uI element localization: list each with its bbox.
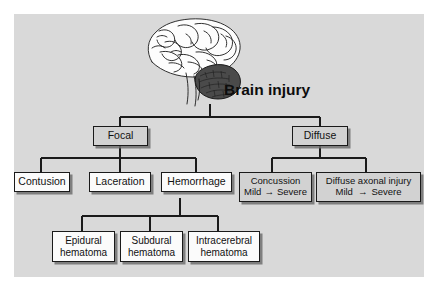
node-focal[interactable]: Focal: [93, 126, 148, 146]
node-contusion-label: Contusion: [18, 176, 65, 188]
node-laceration-label: Laceration: [95, 176, 144, 188]
node-epidural-hematoma-label-line1: Epidural: [65, 235, 102, 246]
node-epidural-hematoma[interactable]: Epidural hematoma: [52, 231, 115, 262]
node-diffuse[interactable]: Diffuse: [292, 126, 348, 146]
node-subdural-hematoma-label-line1: Subdural: [131, 235, 171, 246]
node-intracerebral-hematoma[interactable]: Intracerebral hematoma: [188, 231, 260, 262]
node-subdural-hematoma[interactable]: Subdural hematoma: [120, 231, 183, 262]
node-concussion[interactable]: Concussion Mild → Severe: [239, 172, 312, 202]
severity-arrow-icon: →: [358, 187, 367, 198]
severity-severe-label: Severe: [277, 187, 307, 198]
node-focal-label: Focal: [108, 130, 134, 142]
concussion-severity-scale: Mild → Severe: [244, 187, 307, 198]
node-hemorrhage-label: Hemorrhage: [167, 176, 225, 188]
severity-severe-label: Severe: [371, 187, 401, 198]
severity-mild-label: Mild: [335, 187, 352, 198]
tree-connectors: [41, 104, 366, 231]
node-laceration[interactable]: Laceration: [89, 172, 151, 192]
severity-mild-label: Mild: [244, 187, 261, 198]
node-subdural-hematoma-label-line2: hematoma: [128, 247, 175, 258]
page-title: Brain injury: [224, 81, 310, 99]
severity-arrow-icon: →: [264, 187, 274, 198]
diagram-page: Brain injury Focal Diffuse Contusion Lac…: [0, 0, 446, 295]
node-epidural-hematoma-label-line2: hematoma: [60, 247, 107, 258]
node-intracerebral-hematoma-label-line2: hematoma: [200, 247, 247, 258]
node-hemorrhage[interactable]: Hemorrhage: [161, 172, 232, 192]
node-diffuse-axonal-injury[interactable]: Diffuse axonal injury Mild → Severe: [316, 172, 421, 202]
node-contusion[interactable]: Contusion: [14, 172, 70, 192]
node-diffuse-label: Diffuse: [304, 130, 337, 142]
diffuse-axonal-injury-severity-scale: Mild → Severe: [335, 187, 401, 198]
node-intracerebral-hematoma-label-line1: Intracerebral: [196, 235, 252, 246]
